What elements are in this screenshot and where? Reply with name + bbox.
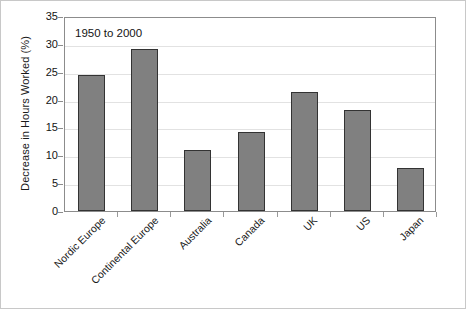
x-category-label: Japan [333,214,426,307]
y-tick-label: 10 [12,150,58,161]
y-tickmark [58,184,63,185]
gridline [65,46,435,47]
gridline [65,102,435,103]
bar [291,92,318,211]
gridline [65,74,435,75]
x-category-label: Continental Europe [67,214,160,307]
x-category-label: Canada [173,214,266,307]
x-category-label: US [279,214,372,307]
y-tick-label: 25 [12,67,58,78]
bar [238,132,265,211]
x-axis-category-labels: Nordic EuropeContinental EuropeAustralia… [64,214,464,309]
y-axis-tick-labels: 05101520253035 [1,17,58,212]
y-tick-label: 5 [12,178,58,189]
y-tick-label: 35 [12,11,58,22]
bar [78,75,105,212]
bar [131,49,158,211]
y-tick-label: 0 [12,206,58,217]
y-tick-label: 20 [12,95,58,106]
x-category-label: Nordic Europe [14,214,107,307]
y-tick-label: 15 [12,122,58,133]
y-tickmark [58,73,63,74]
y-tickmark [58,128,63,129]
y-tickmark [58,156,63,157]
bar [344,110,371,211]
y-tickmark [58,17,63,18]
bar [397,168,424,211]
y-tick-label: 30 [12,39,58,50]
y-tickmark [58,101,63,102]
y-tickmark [58,45,63,46]
bar-chart: Decrease in Hours Worked (%) 05101520253… [0,0,466,309]
bar [184,150,211,211]
x-category-label: Australia [120,214,213,307]
y-tickmark [58,212,63,213]
plot-area: 1950 to 2000 [64,17,436,212]
x-category-label: UK [226,214,319,307]
gridline [65,129,435,130]
chart-annotation: 1950 to 2000 [75,27,142,39]
